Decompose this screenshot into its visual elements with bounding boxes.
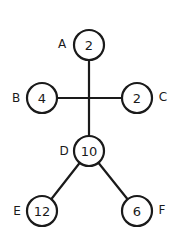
node-e-label: E (13, 204, 21, 218)
node-c: 2 C (122, 83, 167, 113)
node-b-label: B (12, 91, 20, 105)
node-e: 12 E (13, 196, 57, 226)
node-f-label: F (159, 203, 166, 217)
node-e-value: 12 (34, 204, 51, 219)
node-d: 10 D (59, 136, 104, 166)
node-f-value: 6 (133, 204, 141, 219)
node-d-value: 10 (81, 144, 98, 159)
node-a-value: 2 (85, 38, 93, 53)
tree-diagram: 2 A 4 B 2 C 10 D 12 E 6 F (0, 0, 174, 242)
edges (42, 45, 137, 211)
node-f: 6 F (122, 196, 166, 226)
node-c-value: 2 (133, 91, 141, 106)
node-b-value: 4 (38, 91, 46, 106)
node-b: 4 B (12, 83, 57, 113)
node-c-label: C (159, 90, 167, 104)
node-d-label: D (59, 144, 68, 158)
node-a: 2 A (58, 30, 104, 60)
node-a-label: A (58, 37, 67, 51)
